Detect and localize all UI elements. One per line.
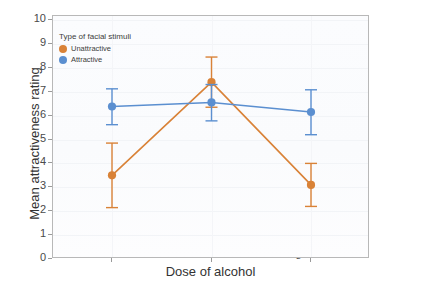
x-axis-title: Dose of alcohol — [52, 264, 369, 279]
data-point-marker — [307, 181, 315, 189]
legend-title: Type of facial stimuli — [59, 32, 163, 41]
legend-items: UnattractiveAttractive — [59, 44, 163, 64]
y-tick-label: 2 — [24, 203, 46, 215]
series-unattractive — [106, 57, 317, 208]
y-tick-label: 5 — [24, 132, 46, 144]
legend-swatch-circle-icon — [59, 56, 67, 64]
y-tick-label: 0 — [24, 251, 46, 263]
chart-figure: Mean attractiveness rating Dose of alcoh… — [0, 0, 421, 287]
x-tick-mark — [211, 258, 212, 262]
legend-swatch-circle-icon — [59, 45, 67, 53]
y-tick-label: 3 — [24, 179, 46, 191]
y-tick-label: 1 — [24, 227, 46, 239]
series-attractive — [106, 85, 317, 135]
data-point-marker — [108, 171, 116, 179]
x-tick-mark — [310, 258, 311, 262]
data-point-marker — [207, 98, 215, 106]
y-tick-label: 9 — [24, 36, 46, 48]
y-tick-label: 8 — [24, 60, 46, 72]
data-point-marker — [108, 102, 116, 110]
legend-item-label: Unattractive — [71, 44, 111, 53]
data-point-marker — [307, 108, 315, 116]
x-tick-mark — [111, 258, 112, 262]
y-tick-mark — [48, 258, 52, 259]
legend-item-label: Attractive — [71, 55, 102, 64]
legend-item[interactable]: Unattractive — [59, 44, 163, 53]
y-tick-label: 7 — [24, 84, 46, 96]
y-tick-label: 10 — [24, 12, 46, 24]
legend: Type of facial stimuli UnattractiveAttra… — [56, 30, 166, 68]
y-tick-label: 4 — [24, 155, 46, 167]
y-tick-label: 6 — [24, 108, 46, 120]
legend-item[interactable]: Attractive — [59, 55, 163, 64]
